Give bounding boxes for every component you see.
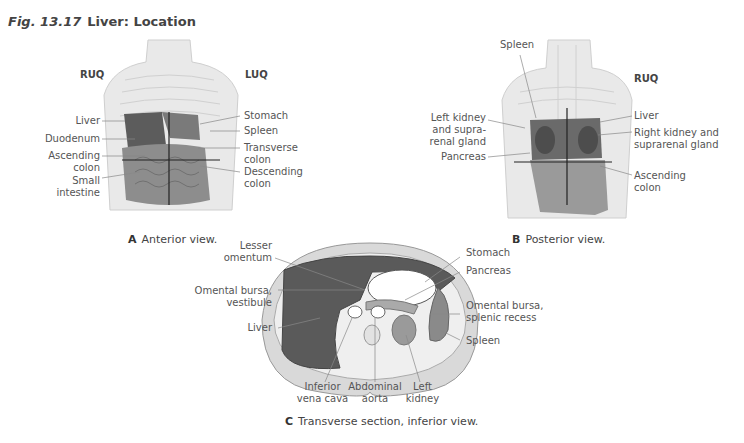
caption-b: BPosterior view. (512, 233, 605, 246)
label-left-kidney-c: Left kidney (405, 381, 440, 405)
label-c-spleen: Spleen (466, 335, 500, 347)
anterior-body-illustration (104, 40, 238, 210)
label-c-liver: Liver (247, 322, 272, 334)
label-abdominal-aorta: Abdominal aorta (345, 381, 405, 405)
label-small-intestine: Small intestine (40, 175, 100, 199)
transverse-section-illustration (262, 243, 478, 396)
label-b-ascending-colon: Ascending colon (634, 170, 694, 194)
label-right-kidney: Right kidney and suprarenal gland (634, 127, 734, 151)
label-left-kidney: Left kidney and supra-renal gland (424, 112, 486, 148)
caption-b-letter: B (512, 233, 520, 246)
label-spleen: Spleen (244, 125, 278, 137)
caption-a-letter: A (128, 233, 137, 246)
label-liver: Liver (75, 115, 100, 127)
label-pancreas: Pancreas (441, 151, 486, 163)
anatomy-illustrations (0, 0, 744, 443)
quadrant-label-ruq: RUQ (80, 69, 104, 80)
posterior-body-illustration (502, 40, 632, 218)
caption-a: AAnterior view. (128, 233, 217, 246)
caption-a-text: Anterior view. (142, 233, 218, 246)
caption-c: CTransverse section, inferior view. (285, 415, 478, 428)
caption-c-text: Transverse section, inferior view. (298, 415, 478, 428)
label-lesser-omentum: Lesser omentum (212, 240, 272, 264)
label-b-liver: Liver (634, 110, 659, 122)
label-ascending-colon: Ascending colon (40, 150, 100, 174)
quadrant-label-b-ruq: RUQ (634, 73, 658, 84)
caption-c-letter: C (285, 415, 293, 428)
label-omental-bursa-vestibule: Omental bursa, vestibule (182, 285, 272, 309)
label-c-stomach: Stomach (466, 247, 510, 259)
label-b-spleen: Spleen (500, 39, 534, 51)
caption-b-text: Posterior view. (525, 233, 605, 246)
label-stomach: Stomach (244, 110, 288, 122)
label-c-pancreas: Pancreas (466, 265, 511, 277)
label-descending-colon: Descending colon (244, 166, 304, 190)
label-inferior-vena-cava: Inferior vena cava (295, 381, 350, 405)
label-transverse-colon: Transverse colon (244, 142, 304, 166)
label-omental-bursa-splenic-recess: Omental bursa, splenic recess (466, 300, 546, 324)
label-duodenum: Duodenum (45, 133, 100, 145)
quadrant-label-luq: LUQ (245, 69, 268, 80)
